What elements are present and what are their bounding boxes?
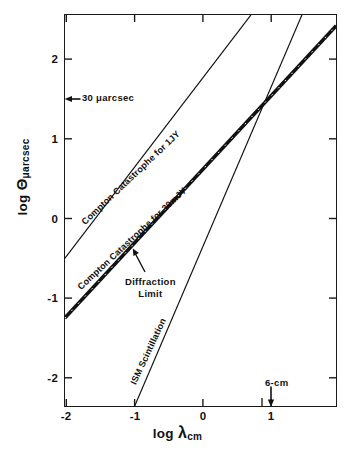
annotation-diffraction-line2: Limit <box>125 288 176 300</box>
y-tick-label-1: 1 <box>40 133 58 145</box>
x-axis-title: log λcm <box>0 424 355 442</box>
x-tick-label-1: -1 <box>130 410 141 422</box>
x-tick-label-2: 0 <box>200 410 207 422</box>
annotation-30-uarcsec: 30 μarcsec <box>82 92 134 103</box>
x-axis-title-prefix: log <box>153 426 178 441</box>
x-axis-title-sub: cm <box>187 431 202 442</box>
x-tick-label-3: 1 <box>268 410 275 422</box>
annotation-diffraction-line1: Diffraction <box>125 276 176 288</box>
y-axis-title-sub: μarcsec <box>20 138 31 178</box>
y-axis-title: log Θμarcsec <box>13 117 31 237</box>
plot-frame <box>64 14 337 407</box>
figure-root: -2 -1 0 1 2 1 0 -1 -2 log λcm log Θμarcs… <box>0 0 355 463</box>
y-tick-label-0: 2 <box>40 53 58 65</box>
y-tick-label-4: -2 <box>36 372 58 384</box>
annotation-6-cm: 6-cm <box>265 377 288 388</box>
x-axis-title-symbol: λ <box>178 424 187 441</box>
y-tick-label-2: 0 <box>40 213 58 225</box>
y-tick-label-3: -1 <box>36 292 58 304</box>
annotation-diffraction-limit: Diffraction Limit <box>125 276 176 300</box>
y-axis-title-prefix: log <box>15 190 30 215</box>
x-tick-label-0: -2 <box>61 410 72 422</box>
y-axis-title-symbol: Θ <box>13 178 30 190</box>
